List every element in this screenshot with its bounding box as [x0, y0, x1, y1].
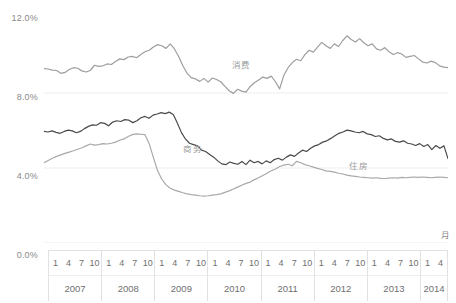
x-axis-year-group: 147102009 — [155, 251, 208, 301]
x-axis-year-group: 147102013 — [368, 251, 421, 301]
series-canvas — [44, 18, 448, 243]
x-tick-month: 10 — [301, 258, 314, 268]
x-tick-month: 4 — [115, 258, 128, 268]
y-tick-label-8: 8.0% — [0, 92, 38, 102]
x-tick-month: 1 — [368, 258, 381, 268]
x-tick-month: 1 — [421, 258, 434, 268]
x-axis-month-row: 14710 — [315, 251, 367, 275]
x-axis-month-row: 14710 — [208, 251, 260, 275]
y-tick-label-4: 4.0% — [0, 171, 38, 181]
x-axis-month-row: 14710 — [49, 251, 101, 275]
x-axis-table: 1471020071471020081471020091471020101471… — [48, 250, 448, 301]
x-tick-month: 7 — [128, 258, 141, 268]
x-tick-month: 1 — [102, 258, 115, 268]
x-tick-year: 2013 — [368, 275, 420, 301]
x-tick-month: 1 — [315, 258, 328, 268]
y-tick-label-12: 12.0% — [0, 13, 38, 23]
x-axis-year-group: 147102007 — [49, 251, 102, 301]
series-label-business: 商务 — [183, 142, 202, 154]
x-tick-year: 2014 — [421, 275, 447, 301]
x-axis-unit-label: 月 — [441, 228, 450, 240]
x-tick-year: 2009 — [155, 275, 207, 301]
plot-area — [44, 18, 448, 243]
x-axis-month-row: 14710 — [262, 251, 314, 275]
x-axis-year-group: 147102012 — [315, 251, 368, 301]
x-tick-month: 4 — [168, 258, 181, 268]
x-tick-month: 7 — [288, 258, 301, 268]
x-tick-month: 1 — [262, 258, 275, 268]
x-tick-month: 4 — [221, 258, 234, 268]
x-tick-month: 4 — [381, 258, 394, 268]
x-tick-year: 2012 — [315, 275, 367, 301]
x-tick-month: 4 — [62, 258, 75, 268]
x-tick-year: 2007 — [49, 275, 101, 301]
x-axis-month-row: 14710 — [155, 251, 207, 275]
x-tick-month: 10 — [88, 258, 101, 268]
x-tick-month: 1 — [155, 258, 168, 268]
x-tick-month: 7 — [234, 258, 247, 268]
x-axis-year-group: 147102010 — [208, 251, 261, 301]
x-axis-month-row: 14710 — [102, 251, 154, 275]
x-axis-month-row: 14 — [421, 251, 447, 275]
x-tick-month: 7 — [394, 258, 407, 268]
x-axis-year-group: 147102008 — [102, 251, 155, 301]
x-tick-month: 7 — [341, 258, 354, 268]
x-tick-month: 10 — [354, 258, 367, 268]
x-tick-month: 10 — [194, 258, 207, 268]
x-tick-year: 2011 — [262, 275, 314, 301]
chart-container: 12.0% 8.0% 4.0% 0.0% 消费 商务 住房 月 14710200… — [0, 0, 456, 303]
x-tick-month: 4 — [275, 258, 288, 268]
x-tick-month: 10 — [248, 258, 261, 268]
x-tick-month: 4 — [328, 258, 341, 268]
x-axis-year-group: 142014 — [421, 251, 447, 301]
y-tick-label-0: 0.0% — [0, 250, 38, 260]
x-tick-year: 2010 — [208, 275, 260, 301]
x-tick-month: 4 — [434, 258, 447, 268]
x-tick-month: 10 — [407, 258, 420, 268]
x-tick-month: 1 — [208, 258, 221, 268]
x-tick-month: 7 — [181, 258, 194, 268]
series-label-consumption: 消费 — [232, 58, 251, 70]
x-tick-month: 1 — [49, 258, 62, 268]
series-label-housing: 住房 — [349, 159, 368, 171]
x-axis-month-row: 14710 — [368, 251, 420, 275]
x-axis-year-group: 147102011 — [262, 251, 315, 301]
x-tick-month: 10 — [141, 258, 154, 268]
x-tick-month: 7 — [75, 258, 88, 268]
x-tick-year: 2008 — [102, 275, 154, 301]
series-line-business — [44, 112, 448, 165]
